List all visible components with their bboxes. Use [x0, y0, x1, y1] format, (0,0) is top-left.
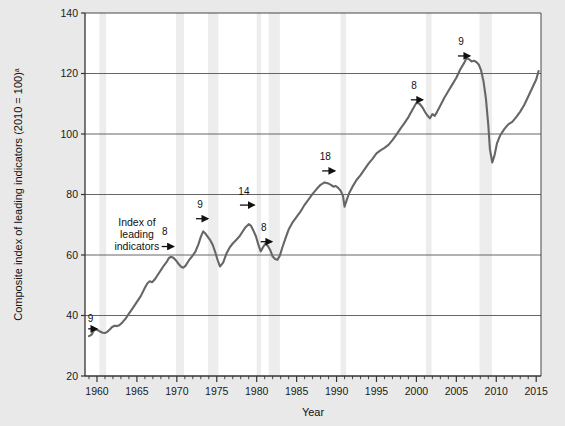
y-axis-title-text: Composite index of leading indicators (2…	[12, 68, 24, 321]
annotation-duration-label: 14	[238, 186, 250, 197]
x-axis-title: Year	[302, 406, 325, 418]
annotation-duration-label: 8	[162, 226, 168, 237]
series-inline-label-line: indicators	[114, 240, 159, 252]
annotation-duration-label: 9	[88, 313, 94, 324]
x-tick-label: 1985	[285, 385, 309, 397]
x-tick-label: 1975	[205, 385, 229, 397]
x-tick-label: 1960	[85, 385, 109, 397]
y-tick-label: 20	[66, 370, 78, 382]
annotation-duration-label: 8	[261, 222, 267, 233]
y-axis-title-superscript: a	[13, 68, 20, 72]
annotation-duration-label: 8	[411, 80, 417, 91]
x-tick-label: 2015	[525, 385, 549, 397]
series-inline-label-line: Index of	[118, 216, 155, 228]
annotation-duration-label: 9	[458, 36, 464, 47]
x-tick-label: 1990	[325, 385, 349, 397]
x-tick-label: 2005	[445, 385, 469, 397]
annotation-duration-label: 9	[197, 199, 203, 210]
x-tick-label: 1980	[245, 385, 269, 397]
x-tick-label: 2010	[485, 385, 509, 397]
y-tick-label: 40	[66, 309, 78, 321]
x-tick-label: 2000	[405, 385, 429, 397]
series-inline-label: Index ofleadingindicators	[114, 216, 159, 252]
y-tick-label: 60	[66, 249, 78, 261]
annotation-duration-label: 18	[320, 151, 332, 162]
chart-figure: 2040608010012014019601965197019751980198…	[0, 0, 565, 426]
y-tick-label: 120	[60, 67, 78, 79]
y-axis-title: Composite index of leading indicators (2…	[12, 68, 24, 321]
y-tick-label: 80	[66, 188, 78, 200]
y-tick-label: 140	[60, 7, 78, 19]
x-tick-label: 1965	[125, 385, 149, 397]
y-tick-label: 100	[60, 128, 78, 140]
series-inline-label-line: leading	[120, 228, 154, 240]
x-tick-label: 1995	[365, 385, 389, 397]
leading-indicators-chart: 2040608010012014019601965197019751980198…	[0, 0, 565, 426]
x-tick-label: 1970	[165, 385, 189, 397]
